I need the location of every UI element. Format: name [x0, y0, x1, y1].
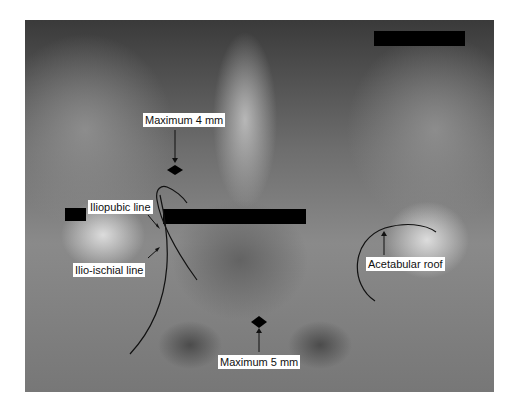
label-maximum-5mm: Maximum 5 mm — [218, 355, 300, 369]
label-iliopubic-line: Iliopubic line — [88, 200, 153, 214]
label-acetabular-roof: Acetabular roof — [366, 257, 445, 271]
annotation-lines — [0, 0, 519, 411]
label-ilio-ischial-line: Ilio-ischial line — [73, 263, 145, 277]
label-maximum-4mm: Maximum 4 mm — [143, 113, 225, 127]
